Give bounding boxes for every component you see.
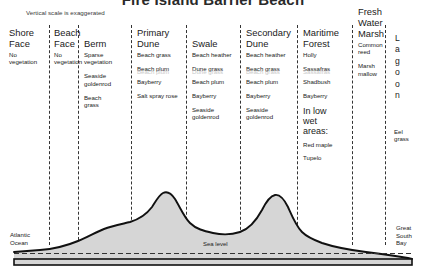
zone-title: Fresh Water Marsh: [358, 6, 385, 39]
substrate-bar: [14, 259, 412, 265]
plant-item: Bayberry: [192, 92, 240, 99]
plant-item: Marsh mallow: [358, 62, 385, 77]
plant-item: Tupelo: [303, 154, 352, 161]
plant-item: Holly: [303, 51, 352, 58]
plant-item: Shadbush: [303, 78, 352, 85]
zone-title: Maritime Forest: [303, 27, 352, 49]
plant-item: Beach heather: [246, 51, 297, 58]
zone-title: Shore Face: [9, 27, 49, 49]
plant-item: Bayberry: [137, 78, 186, 85]
plant-item-ghost: Dune grass: [192, 68, 240, 75]
lagoon-letter: g: [395, 56, 400, 67]
low-wet-areas-note: In low wet areas:: [303, 106, 352, 136]
label-great-south-bay: Great South Bay: [396, 224, 412, 247]
lagoon-letter: o: [395, 79, 400, 90]
lagoon-letter: a: [395, 44, 400, 55]
zone-swale: Swale Beach heather Dune grass Dune gras…: [189, 38, 240, 127]
zone-title: Secondary Dune: [246, 27, 297, 49]
zone-fresh-water-marsh: Fresh Water Marsh Common reed Marsh mall…: [355, 6, 385, 84]
plant-item: Sparse vegetation: [84, 51, 131, 66]
plant-item: Beach grass: [84, 94, 131, 109]
plant-item: Beach plum: [246, 78, 297, 85]
zone-primary-dune: Primary Dune Beach grass Beach plum Beac…: [134, 27, 186, 106]
zone-title: Swale: [192, 38, 240, 49]
plant-item-ghost: Beach grass: [246, 68, 297, 75]
plant-item: Beach heather: [192, 51, 240, 58]
vertical-scale-note: Vertical scale is exaggerated: [26, 9, 105, 16]
plant-item: Seaside goldenrod: [192, 106, 240, 121]
zone-title: Berm: [84, 38, 131, 49]
plant-item: No vegetation: [54, 51, 78, 66]
lagoon-letter: o: [395, 67, 400, 78]
plant-item: Bayberry: [246, 92, 297, 99]
plant-item-ghost: Sassafras: [303, 68, 352, 75]
plant-item-ghost: Beach plum: [137, 68, 186, 75]
zone-beach-face: Beach Face No vegetation: [51, 27, 78, 72]
zone-title: Primary Dune: [137, 27, 186, 49]
zone-shore-face: Shore Face No vegetation: [6, 27, 49, 72]
plant-item: Salt spray rose: [137, 92, 186, 99]
lagoon-letter: n: [395, 90, 400, 101]
label-sea-level: Sea level: [203, 241, 228, 249]
beach-cross-section: [0, 190, 426, 270]
zone-lagoon-label: L a g o o n: [395, 33, 400, 101]
zone-title: Beach Face: [54, 27, 78, 49]
land-profile-fill: [14, 192, 412, 259]
plant-item: Bayberry: [303, 92, 352, 99]
plant-item: Beach plum: [192, 78, 240, 85]
plant-item: Seaside goldenrod: [84, 72, 131, 87]
plant-item: Common reed: [358, 41, 385, 56]
plant-item: Eel grass: [394, 128, 409, 143]
plant-item: Seaside goldenrod: [246, 106, 297, 121]
plant-item: Red maple: [303, 141, 352, 148]
lagoon-letter: L: [395, 33, 400, 44]
barrier-beach-diagram: Fire Island Barrier Beach Vertical scale…: [0, 0, 426, 270]
plant-item: No vegetation: [9, 51, 49, 66]
zone-maritime-forest: Maritime Forest Holly Sassafras Sassafra…: [300, 27, 352, 168]
label-atlantic-ocean: Atlantic Ocean: [10, 231, 30, 246]
zone-berm: Berm Sparse vegetation Seaside goldenrod…: [81, 38, 131, 115]
zone-secondary-dune: Secondary Dune Beach heather Beach grass…: [243, 27, 297, 127]
plant-item: Beach grass: [137, 51, 186, 58]
